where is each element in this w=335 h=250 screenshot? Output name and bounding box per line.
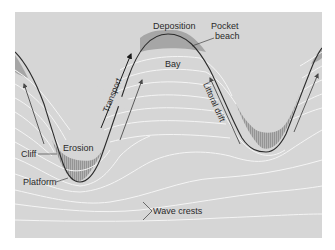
- label-pocket-beach-2: beach: [215, 31, 240, 41]
- coastal-diagram: Deposition Pocket beach Bay Transport Li…: [0, 0, 335, 250]
- label-platform: Platform: [23, 177, 57, 187]
- label-deposition: Deposition: [153, 21, 196, 31]
- label-wave-crests: Wave crests: [153, 206, 203, 216]
- label-erosion: Erosion: [63, 143, 94, 153]
- label-pocket-beach-1: Pocket: [211, 21, 239, 31]
- label-bay: Bay: [165, 59, 181, 69]
- label-cliff: Cliff: [21, 149, 37, 159]
